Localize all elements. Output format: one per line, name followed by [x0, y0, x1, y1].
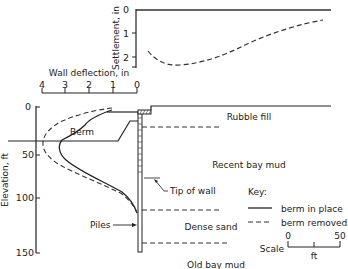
excavation-diagram: 0 1 2 Settlement, in Wall deflection, in… — [0, 0, 348, 269]
elevation-axis: 0 50 100 150 Elevation, ft — [0, 101, 40, 258]
piles-arrowhead — [132, 223, 137, 227]
ground-surface — [151, 106, 331, 110]
deflection-axis: Wall deflection, in 4 3 2 1 0 — [39, 68, 140, 93]
legend-title: Key: — [248, 187, 267, 197]
layer-rubble-fill: Rubble fill — [227, 112, 272, 122]
retaining-wall — [138, 110, 151, 252]
piles-label: Piles — [90, 220, 111, 230]
elevation-tick-50: 50 — [22, 149, 34, 160]
deflection-tick-4: 4 — [39, 79, 45, 90]
settlement-curve-berm-removed — [148, 20, 323, 65]
elevation-tick-0: 0 — [25, 101, 31, 112]
elevation-axis-label: Elevation, ft — [0, 153, 10, 208]
layer-old-bay-mud: Old bay mud — [187, 260, 245, 269]
layer-dense-sand: Dense sand — [185, 222, 238, 232]
settlement-tick-0: 0 — [123, 4, 129, 15]
layer-recent-bay-mud: Recent bay mud — [212, 160, 286, 170]
elevation-tick-100: 100 — [16, 192, 34, 203]
settlement-tick-2: 2 — [123, 52, 129, 63]
legend-solid-label: berm in place — [281, 204, 343, 214]
deflection-curve-berm-removed — [43, 108, 137, 213]
deflection-tick-2: 2 — [86, 79, 92, 90]
elevation-tick-150: 150 — [16, 247, 34, 258]
scale-start: 0 — [285, 231, 291, 241]
scale-bar: Scale 0 50 ft — [260, 231, 346, 261]
scale-end: 50 — [334, 231, 346, 241]
settlement-tick-1: 1 — [123, 28, 129, 39]
berm-label: Berm — [70, 127, 94, 137]
settlement-plot: 0 1 2 Settlement, in — [111, 4, 331, 70]
deflection-tick-0: 0 — [134, 79, 140, 90]
deflection-tick-3: 3 — [62, 79, 68, 90]
tip-of-wall-label: Tip of wall — [169, 186, 216, 196]
deflection-tick-1: 1 — [110, 79, 116, 90]
legend-dashed-label: berm removed — [281, 218, 347, 228]
deflection-axis-label: Wall deflection, in — [49, 68, 129, 78]
scale-label: Scale — [260, 244, 285, 254]
scale-unit: ft — [311, 251, 318, 261]
legend: Key: berm in place berm removed — [248, 187, 347, 228]
settlement-axis-label: Settlement, in — [111, 6, 121, 70]
